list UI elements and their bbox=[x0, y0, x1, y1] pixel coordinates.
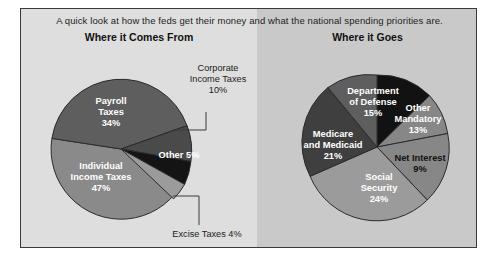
label-dod-line3: 15% bbox=[364, 108, 383, 118]
label-payroll-taxes-line1: Payroll bbox=[95, 96, 126, 106]
label-medicare-line2: and Medicaid bbox=[304, 140, 363, 150]
label-corporate-line2: Income Taxes bbox=[190, 74, 247, 84]
label-individual-income-taxes-line3: 47% bbox=[92, 183, 111, 193]
label-medicare-line3: 21% bbox=[324, 151, 343, 161]
label-other-mandatory-line1: Other bbox=[406, 103, 431, 113]
right-pie-chart: Department of Defense 15% Other Mandator… bbox=[302, 75, 449, 221]
label-other-inline: Other 5% bbox=[159, 150, 201, 160]
label-medicare-line1: Medicare bbox=[313, 129, 353, 139]
label-dod-line2: of Defense bbox=[349, 97, 397, 107]
label-social-security-line1: Social bbox=[365, 172, 392, 182]
label-payroll-taxes-line2: Taxes bbox=[98, 107, 124, 117]
leader-line-excise bbox=[173, 196, 199, 225]
label-excise: Excise Taxes 4% bbox=[172, 229, 241, 239]
label-payroll-taxes-line3: 34% bbox=[102, 118, 121, 128]
label-other-mandatory-line2: Mandatory bbox=[394, 114, 442, 124]
label-net-interest-line1: Net Interest bbox=[394, 153, 445, 163]
figure-root: A quick look at how the feds get their m… bbox=[0, 0, 497, 260]
label-individual-income-taxes-line2: Income Taxes bbox=[71, 172, 132, 182]
label-other-mandatory-line3: 13% bbox=[409, 125, 428, 135]
pie-charts-svg: Payroll Taxes 34% Individual Income Taxe… bbox=[21, 9, 477, 248]
label-dod-line1: Department bbox=[347, 86, 399, 96]
label-corporate-line1: Corporate bbox=[198, 63, 239, 73]
left-pie-chart: Payroll Taxes 34% Individual Income Taxe… bbox=[51, 63, 247, 239]
charts-area: Payroll Taxes 34% Individual Income Taxe… bbox=[21, 9, 477, 248]
label-individual-income-taxes-line1: Individual bbox=[79, 161, 122, 171]
chart-panel: A quick look at how the feds get their m… bbox=[20, 8, 477, 248]
label-net-interest-line2: 9% bbox=[413, 164, 427, 174]
label-social-security-line2: Security bbox=[361, 183, 399, 193]
label-social-security-line3: 24% bbox=[370, 194, 389, 204]
label-corporate-line3: 10% bbox=[209, 85, 227, 95]
